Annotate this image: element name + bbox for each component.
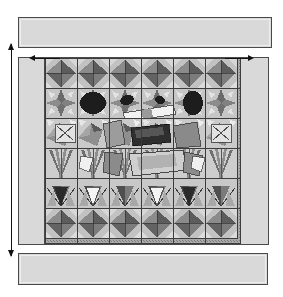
width-dimension-right-line	[225, 58, 250, 59]
height-dimension-arrow-up-icon	[8, 43, 14, 50]
width-dimension-left-line	[34, 58, 60, 59]
width-dimension-left-arrow-icon	[29, 55, 35, 61]
height-dimension-line	[11, 44, 12, 256]
upper-plain-course	[18, 17, 272, 48]
mosaic-field	[45, 58, 241, 244]
width-dimension-right-arrow-icon	[248, 55, 254, 61]
right-plain-jamb	[239, 58, 268, 244]
drawing-canvas	[0, 0, 283, 297]
left-plain-jamb	[19, 58, 45, 244]
central-band	[18, 57, 269, 245]
height-dimension-arrow-down-icon	[8, 250, 14, 257]
lower-plain-course	[18, 253, 268, 285]
